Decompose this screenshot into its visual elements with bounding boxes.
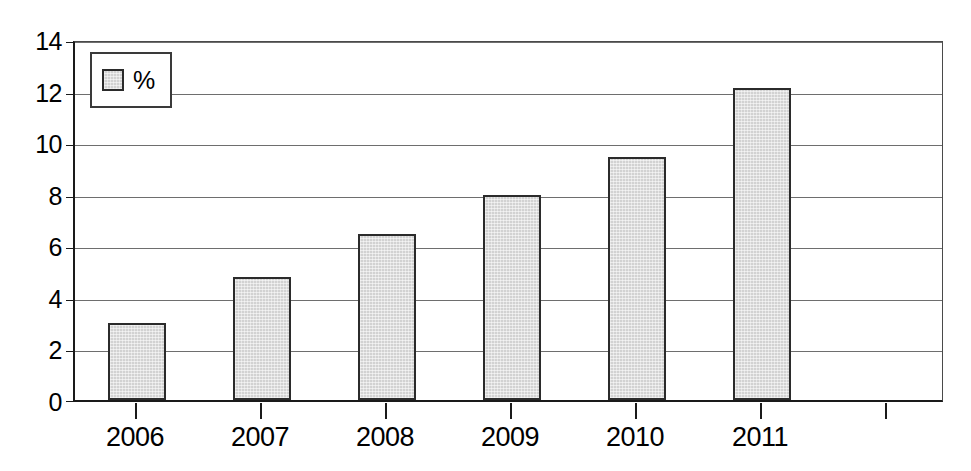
x-axis-label-2010: 2010 — [570, 424, 700, 451]
y-axis-label-4: 4 — [14, 286, 62, 311]
x-tick-0 — [135, 403, 137, 419]
y-tick-2 — [66, 351, 75, 352]
y-axis-label-2: 2 — [14, 338, 62, 363]
y-axis-label-6: 6 — [14, 235, 62, 260]
gridline-10 — [75, 145, 942, 146]
bar-2010[interactable] — [608, 157, 666, 400]
x-axis-label-2006: 2006 — [70, 424, 200, 451]
x-axis-label-2009: 2009 — [445, 424, 575, 451]
gridline-14 — [75, 42, 942, 43]
y-tick-0 — [66, 401, 75, 402]
x-axis-label-2007: 2007 — [195, 424, 325, 451]
y-tick-10 — [66, 145, 75, 146]
y-axis-label-8: 8 — [14, 183, 62, 208]
bar-2011[interactable] — [733, 88, 791, 400]
y-tick-4 — [66, 300, 75, 301]
y-axis-label-12: 12 — [14, 80, 62, 105]
y-tick-8 — [66, 197, 75, 198]
y-tick-14 — [66, 42, 75, 43]
bar-2009[interactable] — [483, 195, 541, 400]
y-tick-12 — [66, 94, 75, 95]
x-tick-3 — [510, 403, 512, 419]
legend: % — [90, 52, 172, 108]
x-tick-2 — [385, 403, 387, 419]
bar-2008[interactable] — [358, 234, 416, 400]
x-axis-label-2008: 2008 — [320, 424, 450, 451]
x-tick-5 — [760, 403, 762, 419]
x-tick-4 — [635, 403, 637, 419]
bar-2007[interactable] — [233, 277, 291, 400]
y-axis-label-14: 14 — [14, 29, 62, 54]
plot-area: % — [73, 41, 943, 402]
x-axis-label-2011: 2011 — [695, 424, 825, 451]
gridline-12 — [75, 94, 942, 95]
legend-swatch-percent — [102, 69, 124, 91]
legend-label-percent: % — [133, 68, 155, 93]
y-axis-label-10: 10 — [14, 132, 62, 157]
x-tick-6 — [885, 403, 887, 419]
bar-2006[interactable] — [108, 323, 166, 400]
bar-chart: 14 12 10 8 6 4 2 0 % — [0, 0, 971, 471]
y-tick-6 — [66, 248, 75, 249]
x-tick-1 — [260, 403, 262, 419]
y-axis-label-0: 0 — [14, 390, 62, 415]
